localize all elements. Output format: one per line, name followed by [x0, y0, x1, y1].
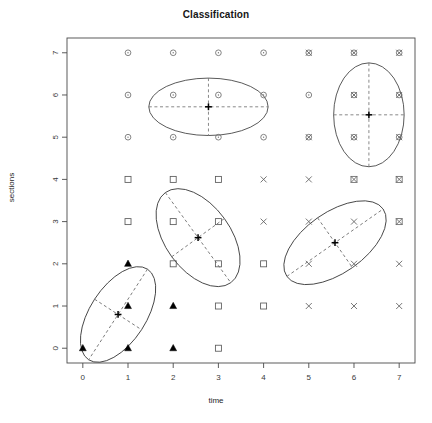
axis-layer — [62, 38, 415, 368]
data-point-open-square — [215, 176, 221, 182]
cluster-centroid — [205, 103, 212, 110]
data-point-open-circle — [261, 50, 267, 56]
data-point-open-circle — [306, 50, 312, 56]
x-tick-label: 1 — [126, 373, 131, 382]
series-cluster-overlap-squares — [351, 176, 402, 224]
data-point-open-square — [125, 219, 131, 225]
series-cluster-overlap-circles — [306, 50, 402, 140]
series-cluster-2 — [125, 176, 267, 351]
data-point-open-square — [170, 176, 176, 182]
data-point-cross-x — [396, 219, 402, 225]
y-tick-label: 2 — [52, 261, 61, 266]
data-point-cross-x — [396, 261, 402, 267]
data-point-cross-x — [396, 303, 402, 309]
data-point-filled-triangle — [170, 302, 177, 308]
x-tick-label: 2 — [171, 373, 176, 382]
data-point-open-circle — [216, 50, 222, 56]
series-cluster-4 — [261, 50, 403, 309]
data-point-open-square — [215, 219, 221, 225]
y-tick-label: 0 — [52, 345, 61, 350]
data-point-open-square — [170, 219, 176, 225]
data-point-open-square — [261, 303, 267, 309]
data-point-open-circle — [170, 134, 176, 140]
series-cluster-1 — [79, 260, 176, 351]
data-point-open-circle — [351, 50, 357, 56]
data-point-cross-x — [261, 219, 267, 225]
data-point-filled-triangle — [125, 344, 132, 350]
data-points-layer — [79, 50, 402, 351]
data-point-cross-x — [306, 261, 312, 267]
data-point-open-square — [215, 345, 221, 351]
series-cluster-3 — [125, 50, 311, 140]
data-point-cross-x — [351, 303, 357, 309]
data-point-open-circle — [261, 92, 267, 98]
classification-plot: Classification sections time 01234567012… — [0, 0, 432, 423]
x-tick-label: 7 — [397, 373, 402, 382]
data-point-cross-x — [351, 176, 357, 182]
data-point-cross-x — [396, 176, 402, 182]
y-tick-label: 7 — [52, 50, 61, 55]
data-point-open-circle — [396, 50, 402, 56]
cluster-centroid — [332, 239, 339, 246]
data-point-open-square — [261, 261, 267, 267]
y-tick-label: 1 — [52, 303, 61, 308]
data-point-open-circle — [170, 50, 176, 56]
data-point-open-circle — [216, 92, 222, 98]
y-tick-label: 4 — [52, 177, 61, 182]
data-point-filled-triangle — [170, 344, 177, 350]
data-point-open-circle — [125, 134, 131, 140]
data-point-cross-x — [351, 261, 357, 267]
data-point-open-circle — [306, 92, 312, 98]
cluster-centroid — [195, 234, 202, 241]
data-point-cross-x — [351, 219, 357, 225]
data-point-open-circle — [125, 50, 131, 56]
x-tick-label: 4 — [261, 373, 266, 382]
data-point-cross-x — [306, 176, 312, 182]
cluster-centroid — [366, 111, 373, 118]
data-point-open-square — [215, 303, 221, 309]
data-point-open-circle — [306, 134, 312, 140]
data-point-open-circle — [261, 134, 267, 140]
x-tick-label: 5 — [307, 373, 312, 382]
data-point-open-circle — [351, 134, 357, 140]
data-point-open-circle — [170, 92, 176, 98]
y-tick-label: 3 — [52, 219, 61, 224]
tick-labels-layer: 0123456701234567 — [52, 50, 402, 382]
x-tick-label: 3 — [216, 373, 221, 382]
data-point-filled-triangle — [125, 260, 132, 266]
data-point-open-circle — [351, 92, 357, 98]
data-point-cross-x — [306, 303, 312, 309]
data-point-cross-x — [261, 176, 267, 182]
data-point-open-circle — [125, 92, 131, 98]
ellipse-layer — [65, 63, 404, 375]
x-tick-label: 0 — [81, 373, 86, 382]
x-tick-label: 6 — [352, 373, 357, 382]
plot-canvas: 0123456701234567 — [0, 0, 432, 423]
y-tick-label: 6 — [52, 92, 61, 97]
cluster-centroid — [115, 311, 122, 318]
data-point-cross-x — [306, 219, 312, 225]
data-point-open-square — [125, 176, 131, 182]
y-tick-label: 5 — [52, 134, 61, 139]
